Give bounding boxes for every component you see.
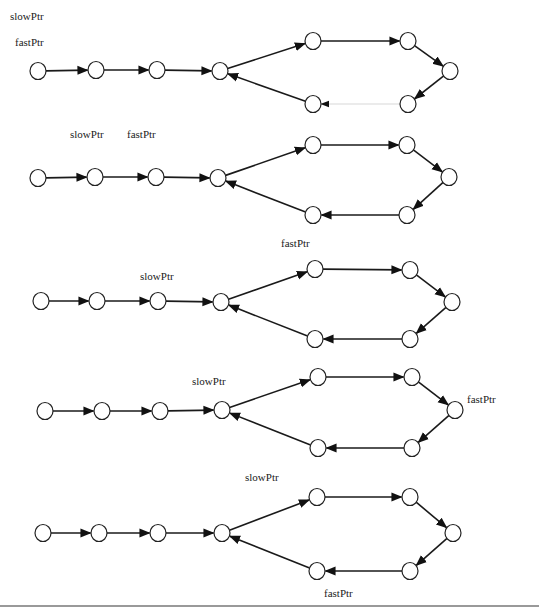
pointer-arrow xyxy=(416,275,445,297)
list-node xyxy=(402,262,418,279)
diagram-step-4: slowPtrfastPtr xyxy=(37,369,496,457)
list-node xyxy=(447,402,463,419)
pointer-arrow xyxy=(165,70,212,71)
list-node xyxy=(212,63,228,80)
list-node xyxy=(33,293,49,310)
list-node xyxy=(152,403,168,420)
list-node xyxy=(94,403,110,420)
pointer-arrow xyxy=(230,413,311,445)
pointer-arrow xyxy=(418,382,448,405)
list-node xyxy=(150,525,166,542)
pointer-arrow xyxy=(228,44,305,69)
fast-pointer-label: fastPtr xyxy=(15,36,44,48)
list-node xyxy=(400,33,416,50)
pointer-arrow xyxy=(416,502,446,527)
pointer-arrow xyxy=(413,150,442,172)
diagram-step-2: slowPtrfastPtr xyxy=(30,128,457,224)
diagram-step-1: slowPtrfastPtr xyxy=(10,10,458,113)
pointer-arrow xyxy=(164,177,210,178)
list-node xyxy=(30,63,46,80)
list-node xyxy=(148,169,164,186)
pointer-arrow xyxy=(229,272,307,300)
slow-pointer-label: slowPtr xyxy=(245,471,279,483)
list-node xyxy=(307,331,323,348)
diagram-step-3: slowPtrfastPtr xyxy=(33,237,460,348)
list-node xyxy=(87,169,103,186)
pointer-arrow xyxy=(415,46,444,66)
list-node xyxy=(442,63,458,80)
pointer-arrow xyxy=(226,181,306,212)
pointer-arrow xyxy=(418,415,449,442)
diagram-step-5: slowPtrfastPtr xyxy=(35,471,461,599)
list-node xyxy=(30,170,46,187)
list-node xyxy=(214,525,230,542)
list-node xyxy=(88,62,104,79)
list-node xyxy=(402,331,418,348)
pointer-arrow xyxy=(229,305,308,336)
pointer-arrow xyxy=(230,380,310,408)
pointer-arrow xyxy=(230,536,310,568)
list-node xyxy=(399,207,415,224)
list-node xyxy=(305,207,321,224)
list-node xyxy=(37,403,53,420)
pointer-arrow xyxy=(323,269,402,270)
pointer-arrow xyxy=(166,301,213,302)
list-node xyxy=(149,62,165,79)
list-node xyxy=(89,293,105,310)
list-node xyxy=(214,402,230,419)
pointer-arrow xyxy=(416,538,447,565)
list-node xyxy=(444,294,460,311)
pointer-arrow xyxy=(229,500,309,530)
list-node xyxy=(309,563,325,580)
list-node xyxy=(305,96,321,113)
pointer-arrow xyxy=(46,70,88,71)
list-node xyxy=(210,170,226,187)
list-node xyxy=(404,369,420,386)
slow-pointer-label: slowPtr xyxy=(140,270,174,282)
list-node xyxy=(305,137,321,154)
list-node xyxy=(307,261,323,278)
fast-pointer-label: fastPtr xyxy=(281,237,310,249)
list-node xyxy=(400,96,416,113)
list-node xyxy=(404,440,420,457)
list-node xyxy=(305,33,321,50)
pointer-arrow xyxy=(228,74,305,101)
pointer-arrow xyxy=(226,148,305,176)
pointer-arrow xyxy=(416,307,446,333)
pointer-arrow xyxy=(46,177,87,178)
pointer-arrow xyxy=(413,182,443,209)
list-node xyxy=(441,169,457,186)
list-node xyxy=(402,563,418,580)
pointer-arrow xyxy=(168,410,214,411)
list-node xyxy=(445,525,461,542)
pointer-arrow xyxy=(415,76,444,99)
list-node xyxy=(91,525,107,542)
slow-pointer-label: slowPtr xyxy=(10,10,44,22)
list-node xyxy=(150,293,166,310)
fast-pointer-label: fastPtr xyxy=(127,128,156,140)
list-node xyxy=(35,525,51,542)
list-node xyxy=(402,489,418,506)
list-node xyxy=(213,294,229,311)
slow-pointer-label: slowPtr xyxy=(70,128,104,140)
list-node xyxy=(399,137,415,154)
list-node xyxy=(310,369,326,386)
slow-pointer-label: slowPtr xyxy=(192,375,226,387)
fast-pointer-label: fastPtr xyxy=(467,393,496,405)
fast-pointer-label: fastPtr xyxy=(324,587,353,599)
linked-list-cycle-diagrams: slowPtrfastPtrslowPtrfastPtrslowPtrfastP… xyxy=(0,0,539,611)
list-node xyxy=(309,489,325,506)
list-node xyxy=(310,440,326,457)
